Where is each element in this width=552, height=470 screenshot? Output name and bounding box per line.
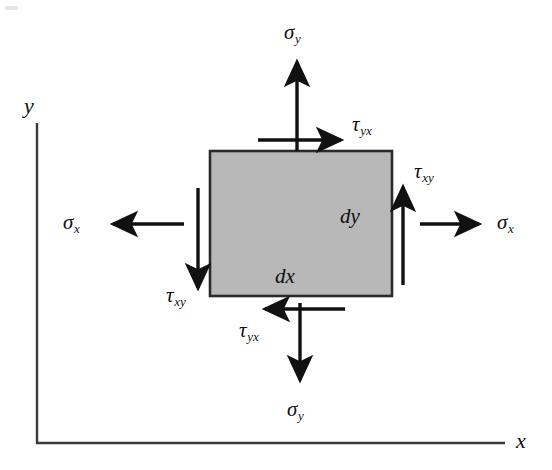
x-axis-label: x xyxy=(516,430,526,452)
tau-glyph: τ xyxy=(414,159,422,183)
sigma-subscript: x xyxy=(74,221,80,236)
element-dx-label: dx xyxy=(275,266,295,287)
stress-label-sigma-x-right: σx xyxy=(497,212,514,235)
stress-element-rect xyxy=(210,151,392,296)
y-axis-label: y xyxy=(24,95,34,117)
tau-subscript: yx xyxy=(360,123,372,138)
tau-glyph: τ xyxy=(239,318,247,342)
sigma-glyph: σ xyxy=(63,210,74,234)
stress-label-tau-xy-right: τxy xyxy=(414,161,434,184)
tau-glyph: τ xyxy=(352,112,360,136)
stress-label-sigma-y-bottom: σy xyxy=(287,399,304,422)
sigma-glyph: σ xyxy=(287,397,298,421)
element-dy-label: dy xyxy=(340,206,360,227)
stress-label-sigma-y-top: σy xyxy=(284,22,301,45)
tau-subscript: xy xyxy=(422,170,434,185)
stress-label-tau-yx-bottom: τyx xyxy=(239,320,259,343)
sigma-subscript: x xyxy=(508,221,514,236)
stress-label-tau-yx-top: τyx xyxy=(352,114,372,137)
stress-element-figure: y x dy dx σy τyx τxy σx σx τxy τyx σy xyxy=(0,0,552,470)
tau-glyph: τ xyxy=(166,283,174,307)
tau-subscript: yx xyxy=(247,329,259,344)
sigma-subscript: y xyxy=(298,408,304,423)
sigma-glyph: σ xyxy=(497,210,508,234)
diagram-vector-layer xyxy=(0,0,552,470)
stress-label-sigma-x-left: σx xyxy=(63,212,80,235)
stress-label-tau-xy-left: τxy xyxy=(166,285,186,308)
tau-subscript: xy xyxy=(174,294,186,309)
sigma-subscript: y xyxy=(295,31,301,46)
sigma-glyph: σ xyxy=(284,20,295,44)
